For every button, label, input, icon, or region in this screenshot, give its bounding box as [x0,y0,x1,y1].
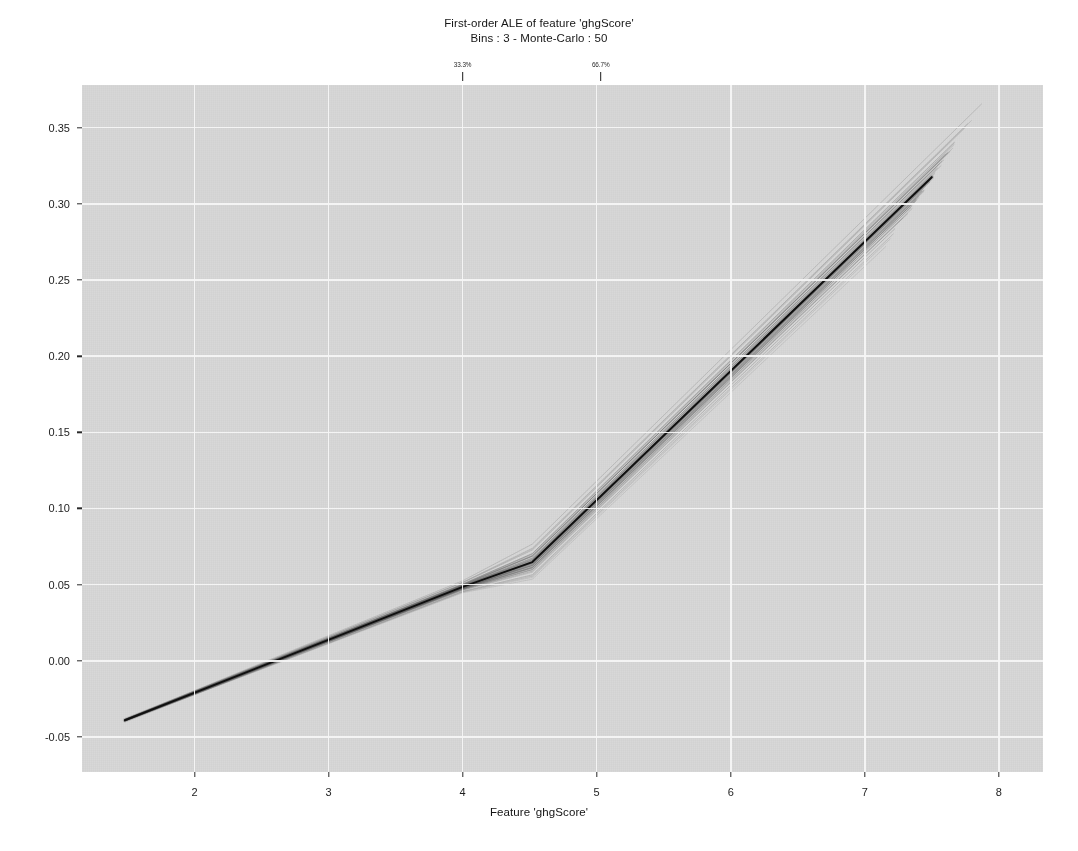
x-axis-tick-label: 4 [460,786,466,798]
panel-texture [82,85,1043,772]
x-axis-tick-label: 7 [862,786,868,798]
chart-title-block: First-order ALE of feature 'ghgScore' Bi… [0,16,1078,45]
gridline-vertical [462,85,464,772]
x-axis-tick-mark [462,772,463,777]
y-axis-tick-label: 0.30 [22,198,70,210]
x-axis-tick-label: 3 [326,786,332,798]
bin-quantile-marker: 66.7% [592,62,610,81]
x-axis-tick-label: 6 [728,786,734,798]
x-axis-tick-mark [730,772,731,777]
x-axis-tick-mark [864,772,865,777]
x-axis-tick-mark [998,772,999,777]
y-axis-tick-label: 0.10 [22,502,70,514]
gridline-vertical [864,85,866,772]
gridline-horizontal [82,279,1043,281]
gridline-horizontal [82,508,1043,510]
x-axis-tick-mark [596,772,597,777]
gridline-vertical [998,85,1000,772]
x-axis-label: Feature 'ghgScore' [0,806,1078,818]
chart-subtitle: Bins : 3 - Monte-Carlo : 50 [0,31,1078,46]
x-axis-tick-mark [194,772,195,777]
gridline-horizontal [82,355,1043,357]
ale-figure: First-order ALE of feature 'ghgScore' Bi… [0,0,1078,851]
y-axis-tick-label: 0.20 [22,350,70,362]
x-axis-tick-label: 8 [996,786,1002,798]
gridline-vertical [730,85,732,772]
gridline-vertical [596,85,598,772]
x-axis-tick-label: 2 [192,786,198,798]
y-axis-tick-label: 0.00 [22,655,70,667]
y-axis-tick-label: 0.15 [22,426,70,438]
x-axis-tick-mark [328,772,329,777]
gridline-horizontal [82,660,1043,662]
bin-percent-label: 33.3% [454,62,472,68]
bin-quantile-marker: 33.3% [454,62,472,81]
gridline-horizontal [82,432,1043,434]
plot-panel [82,85,1043,772]
y-axis-tick-label: 0.05 [22,579,70,591]
bin-tick-mark [462,72,463,81]
y-axis-tick-label: 0.25 [22,274,70,286]
bin-tick-mark [600,72,601,81]
gridline-vertical [328,85,330,772]
gridline-horizontal [82,736,1043,738]
chart-title: First-order ALE of feature 'ghgScore' [0,16,1078,31]
gridline-horizontal [82,203,1043,205]
y-axis-tick-label: -0.05 [22,731,70,743]
gridline-vertical [194,85,196,772]
gridline-horizontal [82,584,1043,586]
x-axis-tick-label: 5 [594,786,600,798]
bin-percent-label: 66.7% [592,62,610,68]
y-axis-tick-label: 0.35 [22,122,70,134]
gridline-horizontal [82,127,1043,129]
